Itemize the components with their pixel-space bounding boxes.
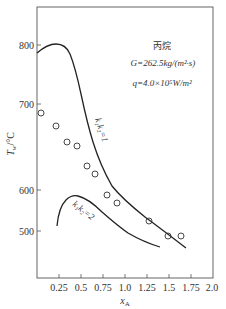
y-tick-label: 500 [19,226,34,237]
x-tick-label: 0.5 [75,282,88,293]
x-tick-label: 1.75 [182,282,200,293]
x-axis: 0.25 0.5 0.75 1.0 1.25 1.5 1.75 2.0 [50,274,218,293]
data-point [92,171,98,177]
y-axis: 800 700 600 500 [19,40,41,237]
x-tick-label: 2.0 [206,282,219,293]
svg-text:Tw/°C: Tw/°C [5,132,18,156]
data-point [38,110,44,116]
fluid-annotation: 丙烷 [153,40,171,51]
data-point [74,143,80,149]
heat-flux-annotation: q=4.0×10⁵W/m² [132,78,192,88]
x-tick-label: 1.25 [138,282,156,293]
x-tick-label: 0.25 [50,282,68,293]
x-tick-label: 0.75 [94,282,112,293]
curve-k1k2-1 [37,44,186,248]
data-point [104,192,110,198]
plot-frame [37,7,213,278]
y-tick-label: 700 [19,99,34,110]
mass-flux-annotation: G=262.5kg/(m²·s) [131,58,196,68]
data-point [64,139,70,145]
data-point [114,200,120,206]
data-point [84,163,90,169]
y-tick-label: 600 [19,185,34,196]
y-axis-label: Tw/°C [5,132,18,156]
curve-label-k1k2-1: k₁k₂=1 [93,117,110,144]
x-tick-label: 1.5 [163,282,176,293]
x-axis-label: xA [119,295,130,308]
data-point [53,123,59,129]
curve-label-k1k2-2: k₁k₂=2 [71,199,97,222]
y-tick-label: 800 [19,40,34,51]
chart-figure: 800 700 600 500 Tw/°C 0.25 0.5 0.75 1.0 … [0,0,226,309]
data-point [178,233,184,239]
x-tick-label: 1.0 [119,282,132,293]
